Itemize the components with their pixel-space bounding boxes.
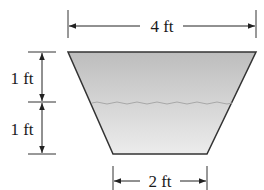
trapezoid-diagram: 4 ft 1 ft 1 ft 2 ft [0,0,264,190]
bottom-width-label: 2 ft [148,172,171,190]
lower-height-label: 1 ft [10,120,33,139]
top-width-label: 4 ft [150,17,173,36]
top-width-dimension: 4 ft [68,10,256,38]
upper-height-label: 1 ft [10,69,33,88]
bottom-width-dimension: 2 ft [113,166,207,190]
height-dimensions: 1 ft 1 ft [10,52,56,154]
